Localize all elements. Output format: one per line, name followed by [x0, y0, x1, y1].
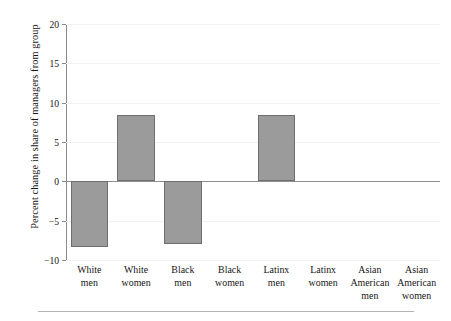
x-axis-label-line: men — [253, 276, 300, 289]
y-tick-label: 10 — [49, 97, 59, 108]
bar — [258, 115, 295, 181]
gridline — [66, 221, 440, 222]
x-axis-label-line: men — [347, 289, 394, 302]
x-axis-label: Blackwomen — [206, 263, 253, 289]
y-tick-mark — [62, 63, 66, 64]
x-axis-label-line: Latinx — [253, 263, 300, 276]
y-tick-label: −10 — [44, 255, 59, 266]
x-axis-label-line: American — [393, 276, 440, 289]
y-tick-mark — [62, 24, 66, 25]
x-axis-label-line: White — [113, 263, 160, 276]
x-axis-label-line: women — [206, 276, 253, 289]
bar-chart-figure: Percent change in share of managers from… — [0, 0, 451, 321]
y-tick-label: 0 — [54, 176, 59, 187]
gridline — [66, 24, 440, 25]
bar — [164, 181, 201, 244]
x-axis-label-line: Latinx — [300, 263, 347, 276]
x-axis-label: Latinxwomen — [300, 263, 347, 289]
bar — [71, 181, 108, 246]
x-axis-label-line: men — [160, 276, 207, 289]
y-tick-mark — [62, 221, 66, 222]
x-axis-label-line: Black — [160, 263, 207, 276]
y-tick-label: −5 — [49, 215, 59, 226]
plot-area: 20151050−5−10 — [66, 24, 440, 260]
x-axis-label: AsianAmericanwomen — [393, 263, 440, 303]
x-axis-label-line: Black — [206, 263, 253, 276]
y-tick-mark — [62, 142, 66, 143]
x-axis-label: Blackmen — [160, 263, 207, 289]
footer-rule — [38, 311, 414, 312]
gridline — [66, 260, 440, 261]
y-axis-title: Percent change in share of managers from… — [29, 0, 40, 257]
x-axis-labels-group: WhitemenWhitewomenBlackmenBlackwomenLati… — [66, 263, 440, 309]
y-tick-label: 15 — [49, 58, 59, 69]
x-axis-label-line: women — [393, 289, 440, 302]
x-axis-label-line: Asian — [347, 263, 394, 276]
bar — [117, 115, 154, 181]
gridline — [66, 63, 440, 64]
y-tick-mark — [62, 103, 66, 104]
x-axis-label: Whitemen — [66, 263, 113, 289]
y-tick-mark — [62, 260, 66, 261]
y-tick-label: 5 — [54, 137, 59, 148]
zero-baseline — [66, 181, 440, 182]
x-axis-label-line: White — [66, 263, 113, 276]
y-tick-label: 20 — [49, 19, 59, 30]
x-axis-label-line: Asian — [393, 263, 440, 276]
gridline — [66, 103, 440, 104]
x-axis-label-line: American — [347, 276, 394, 289]
x-axis-label: Latinxmen — [253, 263, 300, 289]
x-axis-label: AsianAmericanmen — [347, 263, 394, 303]
x-axis-label-line: men — [66, 276, 113, 289]
x-axis-label-line: women — [300, 276, 347, 289]
x-axis-label-line: women — [113, 276, 160, 289]
x-axis-label: Whitewomen — [113, 263, 160, 289]
